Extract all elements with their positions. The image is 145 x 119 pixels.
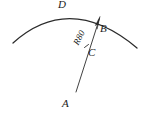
point-label-b: B (100, 23, 107, 34)
point-label-c: C (88, 47, 95, 58)
point-label-a: A (62, 98, 69, 109)
point-label-d: D (58, 0, 66, 10)
geometry-figure: D B C A R80 (0, 0, 145, 119)
figure-canvas (0, 0, 145, 119)
